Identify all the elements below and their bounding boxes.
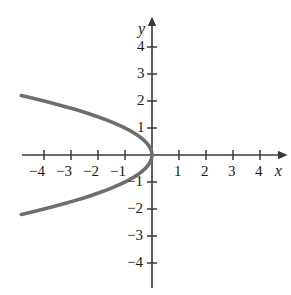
y-tick-label: 3 bbox=[137, 66, 145, 81]
y-tick-label: −1 bbox=[127, 174, 143, 189]
x-tick-label: 2 bbox=[201, 164, 209, 179]
y-tick-label: −3 bbox=[127, 228, 143, 243]
x-axis-label: x bbox=[275, 163, 282, 179]
parabola-chart-figure: −4−3−2−112344321−1−2−3−4 x y bbox=[0, 0, 291, 295]
y-tick-label: −2 bbox=[127, 201, 143, 216]
y-tick-label: 4 bbox=[137, 39, 145, 54]
x-tick-label: −1 bbox=[110, 164, 126, 179]
x-tick-label: 4 bbox=[255, 164, 263, 179]
chart-canvas bbox=[0, 0, 291, 295]
y-tick-label: 1 bbox=[137, 120, 145, 135]
y-axis-label: y bbox=[138, 21, 145, 37]
x-tick-label: −3 bbox=[56, 164, 72, 179]
y-tick-label: −4 bbox=[127, 255, 143, 270]
y-tick-label: 2 bbox=[137, 93, 145, 108]
x-tick-label: 1 bbox=[174, 164, 182, 179]
x-tick-label: −2 bbox=[83, 164, 99, 179]
x-tick-label: 3 bbox=[228, 164, 236, 179]
x-tick-label: −4 bbox=[29, 164, 45, 179]
